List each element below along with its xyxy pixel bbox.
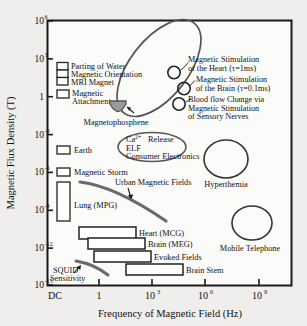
y-axis-title: Magnetic Flux Density (T) (5, 96, 17, 209)
x-axis-title: Frequency of Magnetic Field (Hz) (98, 308, 243, 320)
label-squid-line2: Sensitivity (50, 274, 86, 283)
x-tick-label-0: DC (48, 290, 62, 301)
y-tick-exp-6: -12 (45, 240, 53, 247)
label-ms-brain-line2: of the Brain (τ=0.1ms) (196, 84, 271, 93)
x-tick-label-1: 1 (97, 290, 102, 301)
figure-canvas: 10 6 10 3 1 10 -3 10 -6 10 -9 (0, 0, 307, 326)
label-mobile-telephone: Mobile Telephone (220, 244, 281, 253)
label-magnetophosphene: Magnetophosphene (84, 118, 149, 127)
y-tick-label-5: 10 (35, 205, 45, 215)
y-tick-label-7: 10 (35, 280, 45, 290)
x-tick-exp-3: 6 (210, 288, 213, 295)
y-tick-exp-5: -9 (45, 202, 50, 209)
y-tick-label-2: 1 (39, 92, 44, 102)
label-brain-stem: Brain Stem (186, 266, 224, 275)
label-heart-mcg: Heart (MCG) (139, 229, 184, 238)
label-consumer-electronics: Consumer Electronics (126, 152, 200, 161)
region-box-earth: Earth (57, 146, 93, 155)
label-ms-heart-line2: of the Heart (τ=1ms) (188, 64, 256, 73)
region-box-magnetic-storm: Magnetic Storm (57, 168, 128, 177)
label-lung-mpg: Lung (MPG) (74, 201, 117, 210)
y-tick-exp-4: -6 (45, 164, 50, 171)
y-tick-label-3: 10 (35, 130, 45, 140)
label-evoked-fields: Evoked Fields (154, 253, 202, 262)
label-earth: Earth (74, 146, 93, 155)
x-tick-label-3: 10 (198, 290, 208, 301)
label-mri-magnet: MRI Magnet (71, 78, 115, 87)
x-tick-label-2: 10 (145, 290, 155, 301)
label-magnetic-storm: Magnetic Storm (74, 168, 128, 177)
label-brain-meg: Brain (MEG) (148, 240, 193, 249)
x-tick-exp-2: 3 (157, 288, 160, 295)
y-tick-exp-3: -3 (45, 127, 50, 134)
region-box-brain-stem: Brain Stem (126, 264, 224, 275)
y-tick-exp-1: 3 (45, 51, 48, 58)
y-tick-label-6: 10 (35, 243, 45, 253)
label-magnetic-attachment-line2: Attachment (72, 97, 111, 106)
y-tick-label-0: 10 (35, 16, 45, 26)
label-release: Release (148, 135, 174, 144)
region-box-brain-meg: Brain (MEG) (88, 238, 193, 249)
y-tick-exp-0: 6 (45, 13, 48, 20)
region-box-mri-magnet: MRI Magnet (57, 78, 115, 87)
x-tick-label-4: 10 (252, 290, 262, 301)
y-tick-label-4: 10 (35, 167, 45, 177)
region-box-heart-mcg: Heart (MCG) (79, 227, 184, 239)
label-blood-line3: of Sensory Nerves (188, 112, 248, 121)
label-ca-superscript: 2+ (135, 134, 141, 140)
label-hyperthemia: Hyperthemia (204, 180, 248, 189)
x-tick-exp-4: 9 (264, 288, 267, 295)
x-tick-0: DC (48, 290, 62, 301)
y-tick-label-1: 10 (35, 54, 45, 64)
label-urban-magnetic-fields: Urban Magnetic Fields (115, 178, 192, 187)
region-box-evoked-fields: Evoked Fields (94, 251, 202, 262)
magnetic-flux-density-chart: 10 6 10 3 1 10 -3 10 -6 10 -9 (0, 0, 307, 326)
